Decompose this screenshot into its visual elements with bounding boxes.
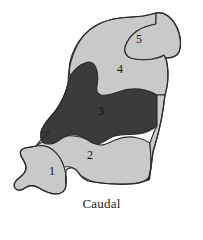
region-label-1: 1 — [49, 164, 55, 178]
region-label-3: 3 — [98, 104, 104, 118]
region-label-2: 2 — [87, 148, 93, 162]
region-label-5: 5 — [136, 32, 142, 46]
orientation-label-lateral: Lateral — [0, 101, 41, 123]
region-label-4: 4 — [117, 62, 123, 76]
orientation-label-caudal: Caudal — [0, 196, 203, 212]
orientation-label-medial: Medial — [159, 101, 203, 123]
